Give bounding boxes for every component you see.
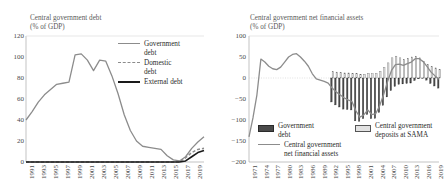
bar — [376, 73, 377, 78]
right-chart-legend-left: Government debt Central government net f… — [258, 122, 341, 160]
x-tick-1986: 1986 — [309, 165, 317, 179]
x-tick-2016: 2016 — [425, 165, 433, 179]
bar — [366, 78, 367, 115]
x-tick-2009: 2009 — [136, 165, 144, 179]
x-tick-2001: 2001 — [88, 165, 96, 179]
legend-swatch-line-gray-right-icon — [258, 144, 280, 145]
x-tick-1995: 1995 — [52, 165, 60, 179]
right-chart-subtitle: (% of GDP) — [250, 23, 363, 32]
y-tick-0: 0 — [243, 74, 247, 82]
x-tick-1997: 1997 — [64, 165, 72, 179]
bar — [410, 78, 411, 83]
bar — [419, 58, 420, 78]
x-tick-1983: 1983 — [297, 165, 305, 179]
right-y-axis-labels: 100 50 0 −50 −100 −150 −200 — [224, 36, 246, 162]
panel-central-government-net-financial-assets: Central government net financial assets … — [224, 0, 447, 196]
legend-label-domestic-debt: Domestic debt — [144, 59, 172, 76]
bar — [403, 60, 404, 78]
bar — [352, 73, 353, 78]
bar — [388, 63, 389, 78]
bar — [402, 78, 403, 84]
bar — [398, 78, 399, 84]
legend-item-government-debt-bar: Government debt — [258, 122, 341, 139]
x-tick-1991: 1991 — [28, 165, 36, 179]
x-tick-2011: 2011 — [148, 165, 156, 179]
legend-label-net-financial-assets: Central government net financial assets — [284, 141, 341, 158]
bar — [418, 78, 419, 79]
bar — [394, 78, 395, 86]
y-tick-20: 20 — [17, 137, 24, 145]
bar — [350, 78, 351, 110]
x-tick-2013: 2013 — [413, 165, 421, 179]
left-chart-title-main: Central government debt — [30, 14, 101, 22]
y-tick-60: 60 — [17, 95, 24, 103]
bar — [344, 73, 345, 78]
legend-label-deposits-at-sama: Central government deposits at SAMA — [375, 122, 432, 139]
bar — [407, 58, 408, 78]
bar — [414, 78, 415, 81]
y-tick-40: 40 — [17, 116, 24, 124]
bar — [339, 78, 340, 107]
bar — [348, 73, 349, 78]
bar — [439, 70, 440, 78]
legend-item-net-financial-assets: Central government net financial assets — [258, 141, 341, 158]
y-tick-100: 100 — [236, 32, 247, 40]
bar — [374, 78, 375, 118]
y-tick-120: 120 — [14, 32, 25, 40]
y-tick-neg150: −150 — [232, 137, 246, 145]
x-tick-2019: 2019 — [196, 165, 204, 179]
legend-swatch-line-gray-icon — [118, 43, 140, 44]
x-tick-1980: 1980 — [286, 165, 294, 179]
x-tick-2003: 2003 — [100, 165, 108, 179]
x-tick-2019: 2019 — [437, 165, 445, 179]
bar — [347, 78, 348, 110]
two-panel-chart-figure: Central government debt (% of GDP) 120 1… — [0, 0, 447, 196]
bars-deposits-at-sama — [332, 56, 440, 78]
legend-swatch-bar-dark-icon — [258, 125, 274, 132]
bar — [368, 73, 369, 78]
bar — [426, 78, 427, 80]
legend-item-deposits-at-sama: Central government deposits at SAMA — [355, 122, 432, 139]
legend-swatch-bar-light-icon — [355, 125, 371, 132]
legend-item-external-debt: External debt — [118, 78, 183, 87]
x-tick-2001: 2001 — [367, 165, 375, 179]
bar — [415, 56, 416, 78]
y-tick-100: 100 — [14, 53, 25, 61]
x-tick-1993: 1993 — [40, 165, 48, 179]
legend-label-external-debt: External debt — [144, 78, 183, 87]
bar — [384, 68, 385, 79]
y-tick-neg50: −50 — [235, 95, 246, 103]
legend-item-government-debt: Government debt — [118, 40, 183, 57]
x-tick-1999: 1999 — [76, 165, 84, 179]
x-tick-1977: 1977 — [274, 165, 282, 179]
bar — [362, 78, 363, 119]
y-tick-0: 0 — [21, 158, 25, 166]
left-y-axis-labels: 120 100 80 60 40 20 0 — [4, 36, 24, 162]
x-tick-1995: 1995 — [344, 165, 352, 179]
legend-label-government-debt-bar: Government debt — [278, 122, 314, 139]
legend-label-government-debt: Government debt — [144, 40, 180, 57]
x-tick-2010: 2010 — [402, 165, 410, 179]
x-tick-1992: 1992 — [332, 165, 340, 179]
bar — [372, 74, 373, 78]
bar — [331, 78, 332, 102]
bar — [434, 78, 435, 86]
bar — [343, 78, 344, 109]
x-tick-1971: 1971 — [251, 165, 259, 179]
y-tick-80: 80 — [17, 74, 24, 82]
bar — [336, 72, 337, 78]
bar — [395, 56, 396, 78]
bar — [356, 74, 357, 78]
bar — [390, 78, 391, 91]
panel-central-government-debt: Central government debt (% of GDP) 120 1… — [0, 0, 223, 196]
bar — [332, 72, 333, 78]
x-tick-2005: 2005 — [112, 165, 120, 179]
bar — [360, 74, 361, 78]
bar — [406, 78, 407, 83]
x-tick-2007: 2007 — [390, 165, 398, 179]
left-chart-subtitle: (% of GDP) — [30, 23, 101, 32]
bar — [399, 58, 400, 78]
right-chart-legend-right: Central government deposits at SAMA — [355, 122, 432, 141]
right-chart-title: Central government net financial assets … — [250, 14, 363, 32]
x-tick-2004: 2004 — [379, 165, 387, 179]
